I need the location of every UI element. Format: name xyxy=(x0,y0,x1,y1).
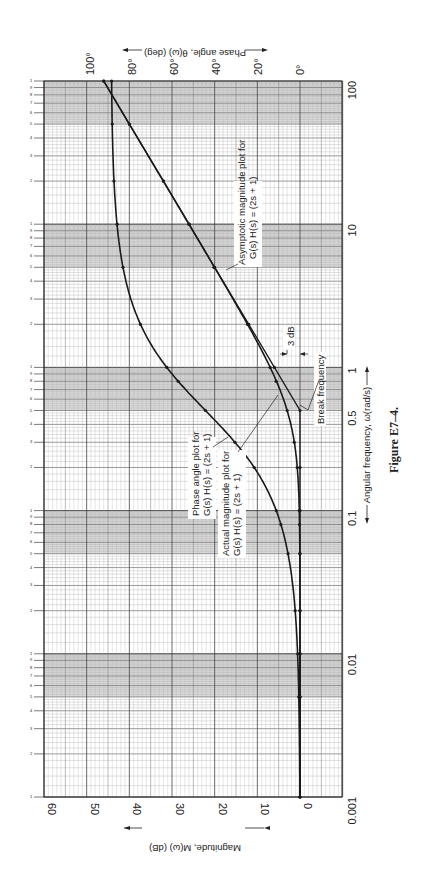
actual-magnitude-point xyxy=(102,79,105,82)
phase-tick-label: 20° xyxy=(252,58,264,75)
magnitude-tick-label: 20 xyxy=(217,803,229,815)
frequency-tick-label: 100 xyxy=(346,81,358,99)
cycle-label: 1 xyxy=(30,78,33,83)
magnitude-axis-arrows xyxy=(124,826,270,830)
phase-angle-point xyxy=(139,323,142,326)
cycle-label: 7 xyxy=(30,673,33,678)
phase-angle-point xyxy=(253,466,256,469)
magnitude-tick-label: 0 xyxy=(302,803,314,809)
cycle-label: 5 xyxy=(30,551,33,556)
3db-label: 3 dB xyxy=(285,326,296,346)
phase-tick-label: 0° xyxy=(294,64,306,75)
cycle-label: 5 xyxy=(30,264,33,269)
cycle-label: 7 xyxy=(30,530,33,535)
cycle-label: 1 xyxy=(30,364,33,369)
actual-magnitude-point xyxy=(298,609,301,612)
cycle-label: 3 xyxy=(30,153,33,158)
cycle-label: 2 xyxy=(30,178,33,183)
actual-magnitude-point xyxy=(298,552,301,555)
cycle-label: 7 xyxy=(30,100,33,105)
asymptotic-magnitude-point xyxy=(273,366,276,369)
actual-magnitude-point xyxy=(187,223,190,226)
cycle-label: 8 xyxy=(30,235,33,240)
cycle-label: 5 xyxy=(30,408,33,413)
phase-tick-label: 80° xyxy=(126,58,138,75)
phase-angle-point xyxy=(121,266,124,269)
phase-label-line1: Phase angle plot for xyxy=(190,431,201,516)
actual-magnitude-point xyxy=(298,523,301,526)
actual-magnitude-point xyxy=(212,266,215,269)
cycle-label: 2 xyxy=(30,321,33,326)
frequency-tick-label: 1 xyxy=(346,367,358,373)
actual-magnitude-point xyxy=(162,179,165,182)
actual-label-line1: Actual magnitude plot for xyxy=(220,451,231,556)
cycle-label: 9 xyxy=(30,371,33,376)
cycle-label: 6 xyxy=(30,396,33,401)
asymptotic-magnitude-point xyxy=(298,466,301,469)
frequency-tick-label: 0.001 xyxy=(346,797,358,825)
figure-caption: Figure E7–4. xyxy=(387,407,401,473)
cycle-label: 8 xyxy=(30,378,33,383)
phase-angle-point xyxy=(279,523,282,526)
cycle-label: 9 xyxy=(30,85,33,90)
phase-angle-point xyxy=(177,380,180,383)
cycle-label: 4 xyxy=(30,135,33,140)
magnitude-tick-labels: 6050403020100 xyxy=(46,803,314,815)
cycle-label: 6 xyxy=(30,253,33,258)
phase-angle-point xyxy=(115,223,118,226)
phase-angle-point xyxy=(294,609,297,612)
actual-magnitude-point xyxy=(298,509,301,512)
cycle-label: 1 xyxy=(30,221,33,226)
asymptotic-magnitude-point xyxy=(298,409,301,412)
actual-magnitude-point xyxy=(293,441,296,444)
actual-magnitude-point xyxy=(246,323,249,326)
phase-angle-point xyxy=(296,652,299,655)
actual-magnitude-point xyxy=(296,466,299,469)
bode-plot-figure: 1234567891234567891234567891234567891234… xyxy=(0,0,435,871)
cycle-label: 4 xyxy=(30,565,33,570)
phase-angle-point xyxy=(233,441,236,444)
frequency-tick-label: 0.5 xyxy=(346,411,358,426)
cycle-label: 9 xyxy=(30,657,33,662)
phase-angle-point xyxy=(286,552,289,555)
cycle-label: 9 xyxy=(30,514,33,519)
magnitude-axis-label: Magnitude, M(ω) (dB) xyxy=(149,843,241,854)
cycle-label: 4 xyxy=(30,708,33,713)
phase-angle-point xyxy=(112,179,115,182)
magnitude-tick-label: 40 xyxy=(131,803,143,815)
phase-tick-label: 40° xyxy=(210,58,222,75)
phase-angle-point xyxy=(111,123,114,126)
cycle-label: 3 xyxy=(30,726,33,731)
cycle-label: 6 xyxy=(30,110,33,115)
magnitude-tick-label: 30 xyxy=(174,803,186,815)
asymptotic-label-line1: Asymptotic magnitude plot for xyxy=(236,140,247,265)
cycle-label: 3 xyxy=(30,439,33,444)
phase-label-line2: G(s) H(s) = (2s + 1) xyxy=(201,434,212,516)
asymptotic-label-line2: G(s) H(s) = (2s + 1) xyxy=(247,177,258,259)
phase-tick-label: 60° xyxy=(168,58,180,75)
actual-magnitude-point xyxy=(128,123,131,126)
break-frequency-label: Break frequency xyxy=(315,355,326,424)
cycle-label: 3 xyxy=(30,296,33,301)
phase-tick-label: 100° xyxy=(84,52,96,75)
cycle-label: 4 xyxy=(30,421,33,426)
cycle-label: 6 xyxy=(30,539,33,544)
cycle-label: 1 xyxy=(30,508,33,513)
frequency-tick-label: 0.1 xyxy=(346,511,358,526)
cycle-label: 6 xyxy=(30,683,33,688)
actual-magnitude-point xyxy=(269,366,272,369)
cycle-label: 3 xyxy=(30,582,33,587)
magnitude-tick-label: 10 xyxy=(259,803,271,815)
cycle-label: 5 xyxy=(30,694,33,699)
cycle-label: 7 xyxy=(30,243,33,248)
cycle-label: 8 xyxy=(30,665,33,670)
phase-axis-label: Phase angle, θ(ω) (deg) xyxy=(144,48,246,59)
frequency-tick-label: 0.01 xyxy=(346,654,358,675)
decade-shading xyxy=(44,81,342,697)
frequency-tick-label: 10 xyxy=(346,224,358,236)
cycle-label: 2 xyxy=(30,608,33,613)
phase-angle-point xyxy=(204,409,207,412)
frequency-tick-labels: 0.0010.010.10.5110100 xyxy=(346,81,358,825)
cycle-label: 1 xyxy=(30,794,33,799)
cycle-label: 4 xyxy=(30,278,33,283)
